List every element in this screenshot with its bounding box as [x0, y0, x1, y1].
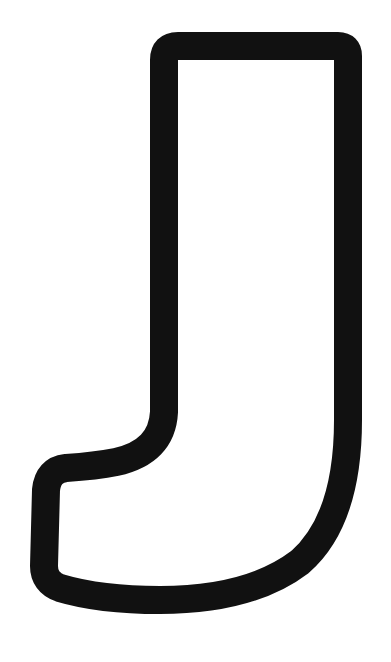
letter-canvas — [0, 0, 391, 662]
letter-j-outline-icon — [0, 0, 391, 662]
